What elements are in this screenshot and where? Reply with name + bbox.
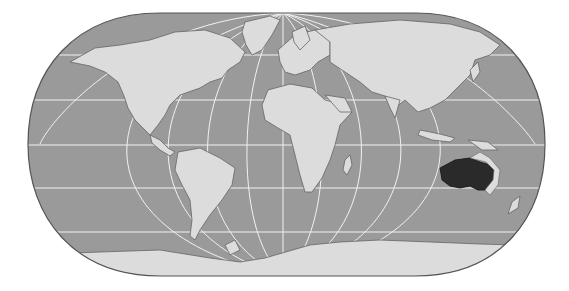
map-canvas <box>0 0 569 291</box>
